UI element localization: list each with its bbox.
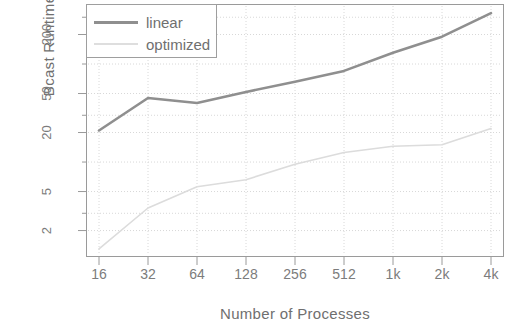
chart-legend: linear optimized xyxy=(86,4,217,58)
legend-swatch-optimized xyxy=(94,43,138,45)
x-tick-label: 512 xyxy=(320,266,368,282)
chart-canvas xyxy=(0,0,513,332)
y-tick-label-text: 2 xyxy=(39,208,54,252)
legend-label-linear: linear xyxy=(146,15,183,30)
y-tick-label-text: 200 xyxy=(39,12,54,56)
y-tick-label-text: 5 xyxy=(39,169,54,213)
x-tick-label: 2k xyxy=(418,266,466,282)
y-tick-label: 5 xyxy=(24,184,68,200)
legend-swatch-linear xyxy=(94,21,138,24)
x-tick-label: 32 xyxy=(124,266,172,282)
y-tick-label: 200 xyxy=(24,27,68,43)
x-tick-label: 128 xyxy=(222,266,270,282)
y-tick-label-text: 50 xyxy=(39,71,54,115)
chart-figure: Bcast Runtime [us] Number of Processes 2… xyxy=(0,0,513,332)
y-tick-label: 50 xyxy=(24,86,68,102)
x-tick-label: 4k xyxy=(467,266,513,282)
x-tick-label: 16 xyxy=(75,266,123,282)
x-tick-label: 64 xyxy=(173,266,221,282)
y-tick-label: 2 xyxy=(24,223,68,239)
legend-entry-optimized: optimized xyxy=(87,33,218,55)
y-tick-label: 20 xyxy=(24,125,68,141)
x-tick-label: 256 xyxy=(271,266,319,282)
legend-label-optimized: optimized xyxy=(146,37,210,52)
legend-entry-linear: linear xyxy=(87,11,218,33)
y-tick-label-text: 20 xyxy=(39,110,54,154)
x-tick-label: 1k xyxy=(369,266,417,282)
